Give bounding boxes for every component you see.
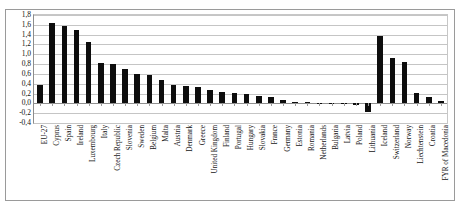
- bar: [86, 42, 92, 103]
- x-axis-category-label: Malta: [163, 125, 170, 142]
- bar: [147, 75, 153, 103]
- x-axis-tickmark: [344, 103, 345, 106]
- x-axis-category-label: Iceland: [382, 125, 389, 146]
- bar: [402, 62, 408, 104]
- x-axis-category-label: Spain: [66, 125, 73, 141]
- x-axis-tickmark: [89, 103, 90, 106]
- bar: [414, 93, 420, 104]
- y-axis-tick-label: 0,6: [22, 70, 31, 78]
- x-axis-tickmark: [234, 103, 235, 106]
- x-axis-category-label: Portugal: [236, 125, 243, 149]
- bar: [159, 80, 165, 104]
- y-axis-tick-label: -0,4: [19, 119, 31, 127]
- bar: [219, 92, 225, 104]
- x-axis-category-label: Hungary: [248, 125, 255, 150]
- x-axis-tickmark: [429, 103, 430, 106]
- x-axis-tickmark: [283, 103, 284, 106]
- x-axis-tickmark: [198, 103, 199, 106]
- bar-series: [34, 15, 447, 123]
- x-axis-category-label: Denmark: [187, 125, 194, 152]
- x-axis-category-label: Slovenia: [127, 125, 134, 150]
- bar: [377, 36, 383, 104]
- bar: [390, 58, 396, 103]
- x-axis-category-label: EU-27: [42, 125, 49, 144]
- bar: [256, 96, 262, 104]
- y-axis-tick-label: 0,4: [22, 80, 31, 88]
- x-axis-category-label: Romania: [309, 125, 316, 151]
- y-axis-tick-label: 1,2: [22, 41, 31, 49]
- x-axis-category-label: Slovakia: [260, 125, 267, 150]
- bar: [37, 85, 43, 104]
- x-axis-category-labels: EU-27CyprusSpainIrelandLuxembourgItalyCz…: [33, 125, 448, 199]
- x-axis-tickmark: [210, 103, 211, 106]
- top-clipped-text-strip: [0, 0, 460, 9]
- x-axis-category-label: Poland: [357, 125, 364, 145]
- y-axis-tick-label: 1,4: [22, 31, 31, 39]
- bar: [122, 69, 128, 103]
- x-axis-category-label: Belgium: [151, 125, 158, 150]
- x-axis-tickmark: [307, 103, 308, 106]
- x-axis-category-label: Latvia: [345, 125, 352, 143]
- x-axis-tickmark: [40, 103, 41, 106]
- x-axis-category-label: Finland: [224, 125, 231, 147]
- gridline: [34, 123, 447, 124]
- x-axis-category-label: Cyprus: [54, 125, 61, 146]
- x-axis-tickmark: [332, 103, 333, 106]
- x-axis-tickmark: [380, 103, 381, 106]
- bar: [207, 90, 213, 103]
- x-axis-tickmark: [319, 103, 320, 106]
- bar: [49, 23, 55, 103]
- x-axis-category-label: Luxembourg: [90, 125, 97, 162]
- x-axis-category-label: Sweden: [139, 125, 146, 148]
- x-axis-category-label: Czech Republic: [115, 125, 122, 171]
- chart-figure: 1,81,61,41,21,00,80,60,40,20,0-0,2-0,4 E…: [0, 0, 460, 205]
- y-axis-tick-label: 0,2: [22, 90, 31, 98]
- y-axis-tick-label: 1,6: [22, 21, 31, 29]
- x-axis-category-label: Bulgaria: [333, 125, 340, 150]
- x-axis-tickmark: [392, 103, 393, 106]
- bar: [134, 74, 140, 103]
- bar: [62, 26, 68, 103]
- x-axis-tickmark: [417, 103, 418, 106]
- x-axis-category-label: Greece: [200, 125, 207, 145]
- x-axis-category-label: FYR of Macedonia: [443, 125, 450, 181]
- x-axis-category-label: United Kingdom: [212, 125, 219, 174]
- x-axis-tickmark: [186, 103, 187, 106]
- x-axis-category-label: Croatia: [430, 125, 437, 146]
- x-axis-category-label: Estonia: [297, 125, 304, 147]
- x-axis-category-label: Lithuania: [370, 125, 377, 153]
- x-axis-tickmark: [441, 103, 442, 106]
- x-axis-tickmark: [247, 103, 248, 106]
- x-axis-tickmark: [162, 103, 163, 106]
- chart-frame: 1,81,61,41,21,00,80,60,40,20,0-0,2-0,4 E…: [5, 9, 455, 201]
- bar: [183, 86, 189, 103]
- x-axis-tickmark: [404, 103, 405, 106]
- y-axis-tick-label: -0,2: [19, 109, 31, 117]
- x-axis-tickmark: [149, 103, 150, 106]
- x-axis-tickmark: [64, 103, 65, 106]
- x-axis-category-label: Ireland: [78, 125, 85, 145]
- x-axis-tickmark: [174, 103, 175, 106]
- y-axis-tick-label: 0,0: [22, 100, 31, 108]
- x-axis-tickmark: [101, 103, 102, 106]
- x-axis-category-label: Austria: [175, 125, 182, 146]
- bar: [98, 63, 104, 103]
- x-axis-tickmark: [77, 103, 78, 106]
- x-axis-tickmark: [52, 103, 53, 106]
- x-axis-category-label: Germany: [285, 125, 292, 152]
- x-axis-tickmark: [113, 103, 114, 106]
- x-axis-tickmark: [271, 103, 272, 106]
- bar: [74, 30, 80, 104]
- bar: [195, 87, 201, 104]
- x-axis-tickmark: [295, 103, 296, 106]
- x-axis-tickmark: [368, 103, 369, 106]
- x-axis-tickmark: [356, 103, 357, 106]
- plot-area: 1,81,61,41,21,00,80,60,40,20,0-0,2-0,4: [33, 14, 448, 124]
- y-axis-tick-label: 1,0: [22, 51, 31, 59]
- bar: [244, 94, 250, 103]
- x-axis-category-label: Switzerland: [394, 125, 401, 159]
- x-axis-category-label: Norway: [406, 125, 413, 148]
- bar: [232, 93, 238, 103]
- bar: [110, 64, 116, 103]
- x-axis-tickmark: [137, 103, 138, 106]
